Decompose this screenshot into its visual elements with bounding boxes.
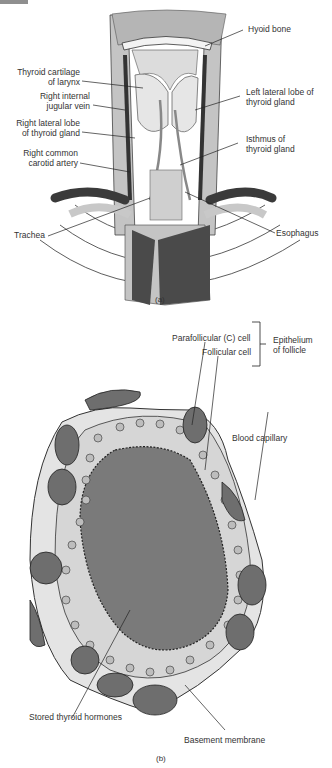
caption-b: (b) — [156, 754, 166, 763]
label-blood-capillary: Blood capillary — [232, 433, 287, 443]
label-line: of follicle — [273, 345, 313, 355]
label-stored-thyroid-hormones: Stored thyroid hormones — [29, 712, 122, 722]
label-parafollicular-cell: Parafollicular (C) cell — [172, 333, 250, 343]
label-epithelium-of-follicle: Epithelium of follicle — [273, 335, 313, 355]
follicle-illustration — [0, 0, 332, 768]
label-basement-membrane: Basement membrane — [184, 735, 265, 745]
label-follicular-cell: Follicular cell — [202, 347, 251, 357]
label-line: Epithelium — [273, 335, 313, 345]
